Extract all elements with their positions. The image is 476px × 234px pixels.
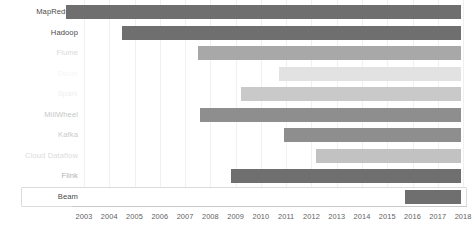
chart-row: Hadoop <box>0 23 476 44</box>
chart-row: Flume <box>0 43 476 64</box>
tick-label-2004: 2004 <box>101 212 118 221</box>
tick-label-2011: 2011 <box>278 212 294 221</box>
tick-label-2016: 2016 <box>404 212 421 221</box>
chart-row: MapReduce <box>0 2 476 23</box>
row-label-cloud-dataflow: Cloud Dataflow <box>0 146 78 167</box>
tick-label-2009: 2009 <box>227 212 244 221</box>
bar-beam <box>405 190 461 204</box>
chart-row: Storm <box>0 64 476 85</box>
bar-millwheel <box>200 108 460 122</box>
tick-label-2015: 2015 <box>379 212 396 221</box>
tick-label-2010: 2010 <box>252 212 269 221</box>
tick-label-2014: 2014 <box>354 212 371 221</box>
chart-row: Beam <box>0 187 476 208</box>
highlighted-row-box <box>21 187 467 208</box>
chart-row: Cloud Dataflow <box>0 146 476 167</box>
chart-row: Flink <box>0 166 476 187</box>
tick-label-2005: 2005 <box>126 212 143 221</box>
row-label-hadoop: Hadoop <box>0 23 78 44</box>
bar-storm <box>279 67 461 81</box>
tick-label-2013: 2013 <box>328 212 345 221</box>
tick-label-2007: 2007 <box>177 212 194 221</box>
tick-label-2003: 2003 <box>76 212 93 221</box>
bar-flink <box>231 169 461 183</box>
chart-row: Spark <box>0 84 476 105</box>
bar-flume <box>198 46 461 60</box>
chart-row: Kafka <box>0 125 476 146</box>
row-label-flink: Flink <box>0 166 78 187</box>
plot-area: MapReduceHadoopFlumeStormSparkMillWheelK… <box>0 0 476 205</box>
tick-label-2006: 2006 <box>151 212 168 221</box>
gantt-chart: MapReduceHadoopFlumeStormSparkMillWheelK… <box>0 0 476 234</box>
row-label-flume: Flume <box>0 43 78 64</box>
row-label-millwheel: MillWheel <box>0 105 78 126</box>
row-label-kafka: Kafka <box>0 125 78 146</box>
chart-row: MillWheel <box>0 105 476 126</box>
tick-label-2017: 2017 <box>429 212 446 221</box>
bar-kafka <box>284 128 461 142</box>
bar-spark <box>241 87 461 101</box>
bar-hadoop <box>122 26 461 40</box>
tick-label-2012: 2012 <box>303 212 320 221</box>
bar-cloud-dataflow <box>316 149 460 163</box>
row-label-storm: Storm <box>0 64 78 85</box>
tick-label-2018: 2018 <box>455 212 472 221</box>
row-label-beam: Beam <box>0 187 78 208</box>
bar-mapreduce <box>66 5 460 19</box>
row-label-spark: Spark <box>0 84 78 105</box>
x-axis-line <box>72 206 467 207</box>
tick-label-2008: 2008 <box>202 212 219 221</box>
